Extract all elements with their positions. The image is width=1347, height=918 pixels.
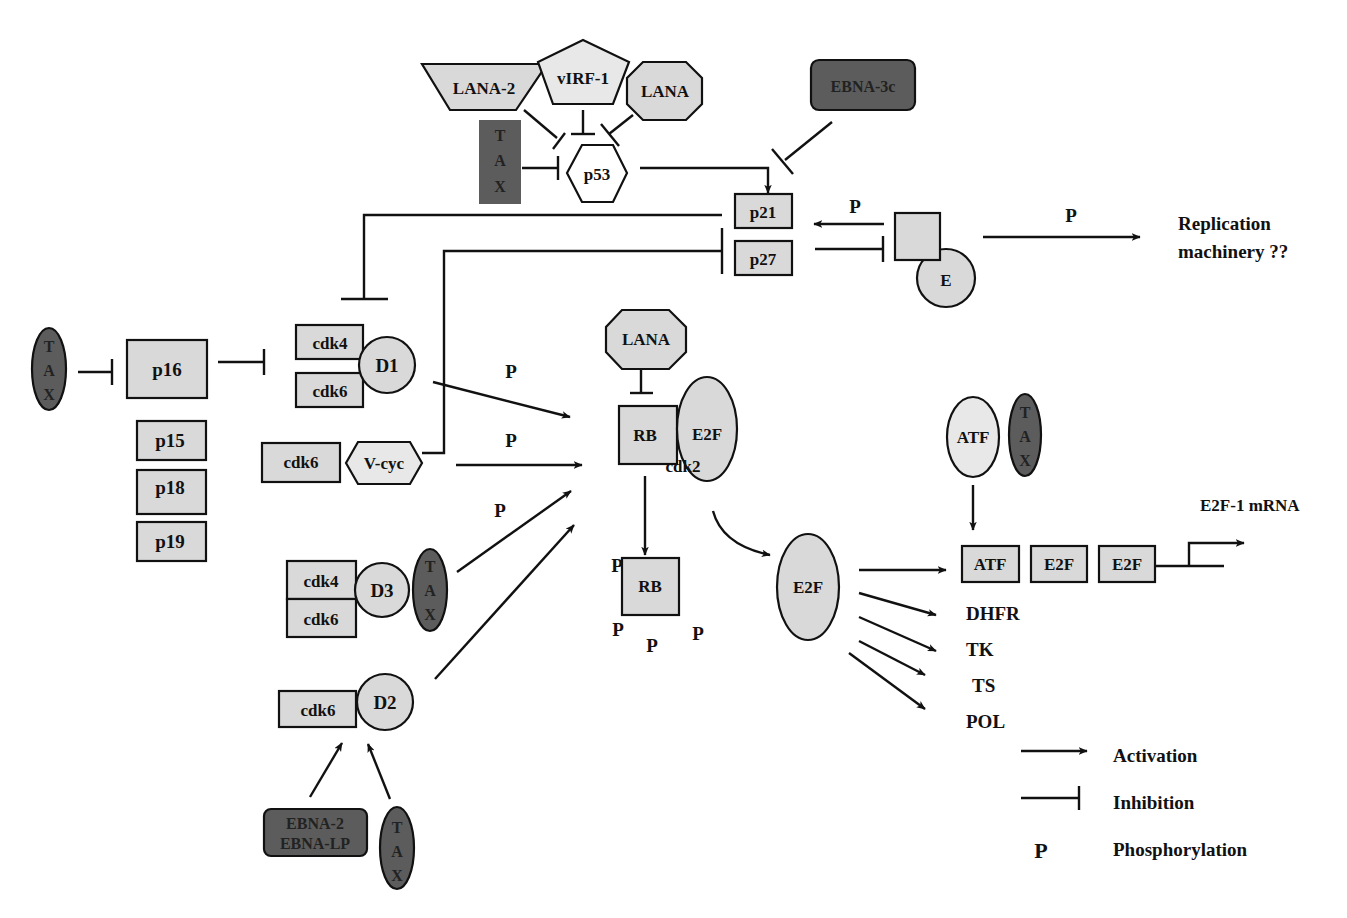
tax-top-letter: A bbox=[494, 152, 506, 169]
p15-label: p15 bbox=[155, 430, 185, 451]
inhibition-lana2-p53 bbox=[524, 110, 565, 149]
phospho-label: P bbox=[849, 196, 861, 217]
inhibition-virf1-p53 bbox=[571, 110, 595, 134]
tax-atf-letter: A bbox=[1019, 428, 1031, 445]
tax-top-letter: X bbox=[494, 178, 506, 195]
cdk2-label: cdk2 bbox=[666, 457, 701, 476]
inhibition-lana-rb bbox=[630, 370, 653, 393]
phosphorylated-rb-node: RB P P P P bbox=[611, 555, 704, 656]
phospho-label: P bbox=[505, 361, 517, 382]
e2f1-promoter: ATF E2F E2F bbox=[962, 543, 1244, 582]
ebna2-label: EBNA-2 bbox=[286, 815, 344, 832]
phospho-label: P bbox=[692, 623, 704, 644]
activation-e2f-dhfr bbox=[859, 593, 936, 615]
activation-d2-rb bbox=[435, 525, 574, 679]
cdk4-d1-complex: cdk4 cdk6 D1 bbox=[296, 325, 415, 407]
activation-tax-d2 bbox=[368, 744, 390, 799]
p16-label: p16 bbox=[152, 359, 182, 380]
inhibition-p27-e bbox=[815, 236, 883, 262]
cdk4-label: cdk4 bbox=[304, 572, 339, 591]
legend-activation-label: Activation bbox=[1113, 745, 1198, 766]
tax-atf-letter: T bbox=[1020, 404, 1031, 421]
phospho-label: P bbox=[1065, 205, 1077, 226]
lana-mid-node: LANA bbox=[606, 310, 686, 369]
cdk6-label: cdk6 bbox=[304, 610, 339, 629]
ebna3c-label: EBNA-3c bbox=[831, 78, 896, 95]
activation-p53-p21 bbox=[640, 168, 768, 193]
inhibition-tax-p53 bbox=[522, 156, 558, 180]
rb-label: RB bbox=[633, 426, 657, 445]
tax-bottom-letter: A bbox=[391, 843, 403, 860]
legend-phosphorylation-label: Phosphorylation bbox=[1113, 839, 1248, 860]
phospho-label: P bbox=[494, 500, 506, 521]
legend-inhibition-label: Inhibition bbox=[1113, 792, 1195, 813]
promoter-e2f-label: E2F bbox=[1044, 555, 1074, 574]
ebna3c-node: EBNA-3c bbox=[811, 60, 915, 110]
phosphorylation-replication: P bbox=[983, 205, 1140, 237]
tax-left-letter: T bbox=[44, 338, 55, 355]
cyclin-e-cdk2-complex: E bbox=[895, 213, 975, 307]
tax-left-node: T A X bbox=[32, 328, 66, 410]
phospho-label: P bbox=[646, 635, 658, 656]
virf1-label: vIRF-1 bbox=[557, 69, 609, 88]
cdk6-d2-complex: cdk6 D2 bbox=[279, 674, 413, 730]
target-gene-dhfr: DHFR bbox=[966, 603, 1020, 624]
activation-e2f-ts bbox=[859, 641, 925, 675]
p16-node: p16 bbox=[127, 340, 207, 398]
p18-node: p18 bbox=[137, 470, 206, 514]
p18-label: p18 bbox=[155, 477, 185, 498]
legend-inhibition-symbol bbox=[1021, 786, 1079, 810]
target-gene-ts: TS bbox=[972, 675, 995, 696]
p15-node: p15 bbox=[137, 421, 206, 460]
tax-d3-letter: A bbox=[424, 582, 436, 599]
tax-left-letter: X bbox=[43, 386, 55, 403]
phosphorylation-vcyc-rb: P bbox=[456, 430, 582, 465]
p21-label: p21 bbox=[750, 203, 776, 222]
legend-phospho-symbol: P bbox=[1034, 838, 1047, 863]
tax-d3-letter: X bbox=[424, 606, 436, 623]
cdk6-label: cdk6 bbox=[301, 701, 336, 720]
vcyc-label: V-cyc bbox=[364, 454, 405, 473]
tax-bottom-letter: X bbox=[391, 867, 403, 884]
replication-machinery-label: machinery ?? bbox=[1178, 241, 1288, 262]
lana-top-label: LANA bbox=[641, 82, 690, 101]
ebnalp-label: EBNA-LP bbox=[280, 835, 350, 852]
e2f-free-label: E2F bbox=[793, 578, 823, 597]
cyclin-e-label: E bbox=[940, 271, 951, 290]
promoter-e2f-label: E2F bbox=[1112, 555, 1142, 574]
target-gene-pol: POL bbox=[966, 711, 1005, 732]
phospho-label: P bbox=[505, 430, 517, 451]
virf1-node: vIRF-1 bbox=[538, 40, 629, 104]
atf-tax-complex: ATF T A X bbox=[947, 394, 1041, 477]
d3-label: D3 bbox=[370, 580, 393, 601]
rb-phos-label: RB bbox=[638, 577, 662, 596]
lana-top-node: LANA bbox=[627, 62, 702, 120]
p27-node: p27 bbox=[735, 241, 792, 275]
lana2-node: LANA-2 bbox=[422, 64, 547, 110]
lana-mid-label: LANA bbox=[622, 330, 671, 349]
p27-label: p27 bbox=[750, 250, 777, 269]
inhibition-p21-cdk4-d1 bbox=[341, 215, 722, 299]
cdk6-vcyc-complex: cdk6 V-cyc bbox=[262, 442, 422, 484]
cdk6-label: cdk6 bbox=[284, 453, 319, 472]
d2-label: D2 bbox=[373, 692, 396, 713]
p21-node: p21 bbox=[735, 194, 792, 228]
e2f-free-node: E2F bbox=[777, 534, 839, 640]
phosphorylation-d1-rb: P bbox=[433, 361, 570, 417]
p53-label: p53 bbox=[584, 165, 610, 184]
phosphorylation-e-p21: P bbox=[814, 196, 884, 224]
tax-bottom-letter: T bbox=[392, 819, 403, 836]
cdk-d3-complex: cdk4 cdk6 D3 T A X bbox=[287, 549, 447, 637]
activation-e2f-release bbox=[713, 511, 770, 555]
p19-label: p19 bbox=[155, 531, 185, 552]
p53-node: p53 bbox=[567, 145, 627, 202]
phospho-label: P bbox=[612, 619, 624, 640]
e2f-complex-label: E2F bbox=[692, 425, 722, 444]
p19-node: p19 bbox=[137, 522, 206, 561]
tax-top-node: T A X bbox=[479, 120, 521, 204]
atf-label: ATF bbox=[957, 428, 990, 447]
tax-bottom-node: T A X bbox=[380, 807, 414, 889]
inhibition-tax-p16 bbox=[78, 359, 112, 385]
phospho-label: P bbox=[611, 555, 623, 576]
d1-label: D1 bbox=[375, 355, 398, 376]
